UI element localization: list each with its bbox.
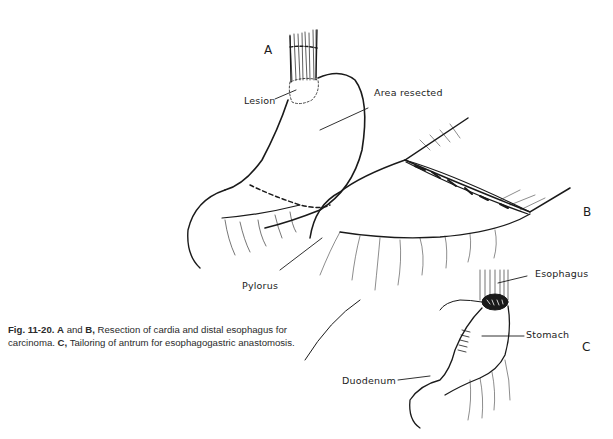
label-pylorus: Pylorus (242, 280, 278, 291)
panel-label-b: B (583, 205, 591, 219)
caption-fig-number: Fig. 11-20. (8, 324, 54, 335)
label-esophagus: Esophagus (535, 268, 588, 279)
panel-label-c: C (582, 340, 590, 354)
panel-label-a: A (264, 43, 272, 57)
caption-and: and (64, 324, 85, 335)
panel-b-drawing (305, 118, 570, 360)
label-area-resected: Area resected (374, 87, 443, 98)
caption-text-2: Tailoring of antrum for esophagogastric … (67, 337, 295, 348)
surgical-figure: A B C Lesion Area resected Pylorus Esoph… (0, 0, 613, 439)
label-lesion: Lesion (244, 95, 276, 106)
caption-b-label: B, (85, 324, 95, 335)
figure-caption: Fig. 11-20. A and B, Resection of cardia… (8, 323, 328, 349)
illustration (0, 0, 613, 439)
panel-c-drawing (398, 270, 527, 428)
panel-a-drawing (188, 30, 368, 270)
caption-a-label: A (57, 324, 64, 335)
caption-c-label: C, (58, 337, 68, 348)
label-stomach: Stomach (526, 329, 569, 340)
label-duodenum: Duodenum (342, 375, 396, 386)
